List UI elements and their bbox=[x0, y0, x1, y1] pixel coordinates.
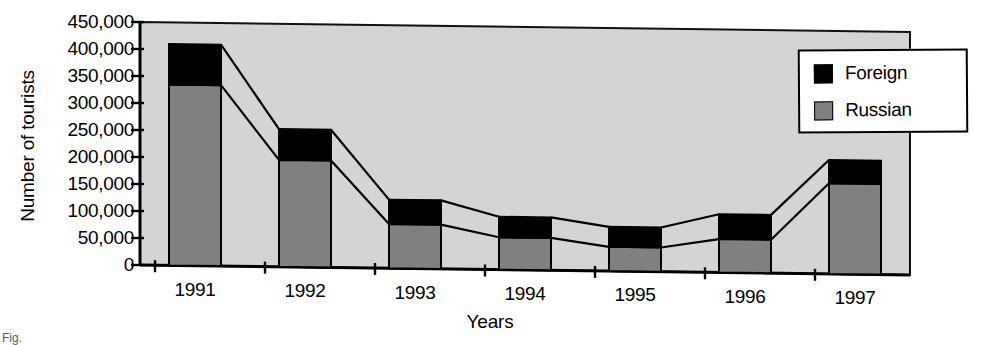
legend-swatch-russian bbox=[814, 101, 833, 120]
chart-legend: Foreign Russian bbox=[798, 48, 969, 133]
x-axis-tick-label: 1995 bbox=[590, 285, 680, 304]
x-axis-tick-label: 1997 bbox=[810, 288, 900, 307]
legend-label-foreign: Foreign bbox=[845, 62, 907, 84]
x-axis-tick-label: 1994 bbox=[480, 284, 570, 303]
x-axis-tick-label: 1992 bbox=[260, 281, 350, 300]
legend-item-foreign: Foreign bbox=[814, 58, 908, 89]
x-axis-tick-label: 1991 bbox=[150, 280, 240, 299]
legend-item-russian: Russian bbox=[814, 95, 912, 126]
legend-swatch-foreign bbox=[814, 64, 833, 83]
legend-label-russian: Russian bbox=[845, 99, 912, 121]
x-axis-tick-label: 1996 bbox=[700, 287, 790, 306]
figure-caption: Fig. bbox=[2, 331, 22, 345]
x-axis-title: Years bbox=[390, 311, 590, 333]
x-axis-tick-label: 1993 bbox=[370, 283, 460, 302]
